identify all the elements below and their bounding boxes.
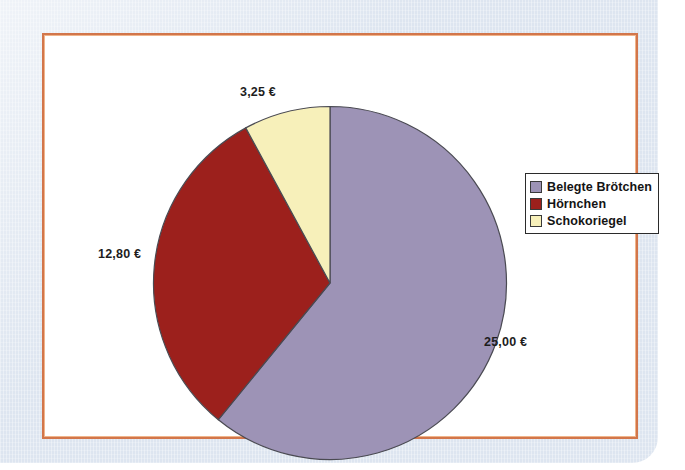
screenshot-root: 3,25 € 12,80 € 25,00 € Belegte Brötchen … [0,0,685,470]
legend-item-belegte-broetchen[interactable]: Belegte Brötchen [530,178,652,195]
chart-legend[interactable]: Belegte Brötchen Hörnchen Schokoriegel [525,173,659,234]
legend-label-belegte-broetchen: Belegte Brötchen [547,180,652,194]
chart-plot-frame: 3,25 € 12,80 € 25,00 € Belegte Brötchen … [42,33,638,439]
legend-swatch-belegte-broetchen [530,181,542,193]
pie-chart [152,105,508,461]
legend-item-hoernchen[interactable]: Hörnchen [530,195,652,212]
legend-label-hoernchen: Hörnchen [547,197,606,211]
data-label-hoernchen: 12,80 € [98,247,141,261]
pie-slices [154,107,507,460]
pie-chart-svg [152,105,508,461]
data-label-schokoriegel: 3,25 € [240,85,276,99]
legend-swatch-hoernchen [530,198,542,210]
legend-item-schokoriegel[interactable]: Schokoriegel [530,212,652,229]
data-label-belegte-broetchen: 25,00 € [484,335,527,349]
legend-label-schokoriegel: Schokoriegel [547,214,627,228]
legend-swatch-schokoriegel [530,215,542,227]
